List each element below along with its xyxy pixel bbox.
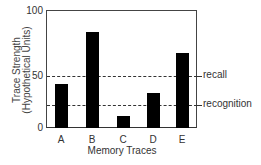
recognition-threshold-line-extension	[197, 105, 202, 106]
x-tick-label: D	[146, 134, 160, 145]
recall-threshold-label: recall	[203, 70, 227, 80]
y-axis-title-line-2: (Hypothetical Units)	[22, 26, 32, 113]
bar-b	[86, 32, 99, 128]
x-tick-label: E	[175, 134, 189, 145]
y-tick-label: 100	[19, 6, 43, 16]
bar-a	[55, 84, 68, 128]
bar-d	[147, 93, 160, 128]
bar-e	[176, 53, 189, 128]
x-axis-title: Memory Traces	[72, 145, 172, 156]
bar-c	[117, 116, 130, 128]
recall-threshold-line-extension	[197, 76, 202, 77]
x-tick-label: A	[54, 134, 68, 145]
recognition-threshold-line	[47, 105, 197, 106]
y-tick-label: 0	[19, 123, 43, 133]
y-tick-label: 50	[19, 71, 43, 81]
recall-threshold-line	[47, 76, 197, 77]
recognition-threshold-label: recognition	[203, 99, 252, 109]
plot-area	[46, 10, 197, 128]
x-tick-label: B	[85, 134, 99, 145]
x-tick-label: C	[116, 134, 130, 145]
y-axis-title: Trace Strength (Hypothetical Units)	[12, 26, 32, 113]
